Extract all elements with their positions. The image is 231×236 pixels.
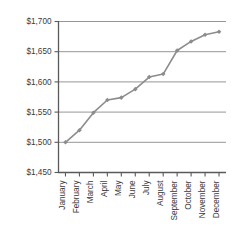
x-tick-label: May	[114, 180, 123, 196]
x-tick-label: September	[170, 180, 179, 220]
series-line-path	[65, 32, 219, 143]
series-markers-group	[63, 29, 221, 144]
x-tick-label: March	[86, 180, 95, 203]
y-tick-label: $1,600	[26, 78, 51, 87]
y-tick-label: $1,450	[26, 168, 51, 177]
x-tick-label: February	[72, 180, 81, 214]
x-tick-label: April	[100, 180, 109, 197]
y-tick-label: $1,650	[26, 47, 51, 56]
x-tick-label: December	[212, 180, 221, 218]
y-tick-label: $1,500	[26, 138, 51, 147]
y-axis-tick-labels: $1,450$1,500$1,550$1,600$1,650$1,700	[26, 17, 51, 177]
y-tick-label: $1,700	[26, 17, 51, 26]
x-tick-label: November	[198, 180, 207, 218]
y-tick-label: $1,550	[26, 108, 51, 117]
x-tick-label: August	[156, 180, 165, 206]
x-axis-tick-labels: JanuaryFebruaryMarchAprilMayJuneJulyAugu…	[58, 180, 221, 221]
chart-canvas: $1,450$1,500$1,550$1,600$1,650$1,700 Jan…	[0, 0, 231, 236]
line-chart: $1,450$1,500$1,550$1,600$1,650$1,700 Jan…	[0, 0, 231, 236]
x-tick-label: January	[58, 180, 67, 210]
x-tick-label: October	[184, 180, 193, 209]
x-tick-label: June	[128, 180, 137, 198]
data-point-marker	[217, 29, 222, 34]
x-tick-label: July	[142, 180, 151, 195]
